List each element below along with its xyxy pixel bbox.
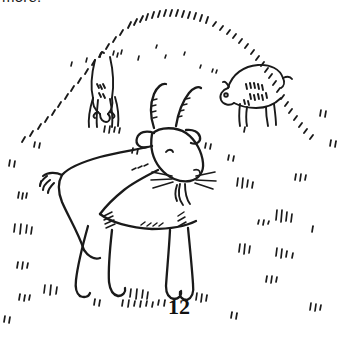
goat-horn-right [176,87,201,126]
foreground-goat [40,84,216,300]
hill-ridge [22,10,313,142]
background-goat-right [220,65,292,126]
goat-front-leg-far [166,230,174,299]
goat-eye [166,150,173,152]
page-number: 12 [168,296,190,318]
goat-belly [100,214,196,229]
illustration-page: more. [0,0,345,337]
goat-beard [176,184,191,205]
goat-hind-leg-near [109,230,118,296]
goat-ear-right [186,130,200,144]
goats-on-hill-illustration [0,0,345,337]
grass-tufts [4,110,336,323]
goat-neck-under [100,170,158,214]
goat-front-leg-near [187,228,193,300]
goat-muzzle [194,170,200,173]
